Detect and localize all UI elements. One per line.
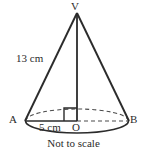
vertex-label-o: O — [72, 122, 80, 133]
right-angle-icon — [64, 108, 77, 121]
radius-label: 5 cm — [39, 122, 61, 133]
vertex-label-b: B — [130, 114, 137, 125]
cone-diagram: V A B O 13 cm 5 cm Not to scale — [0, 0, 147, 155]
not-to-scale-caption: Not to scale — [0, 138, 147, 149]
slant-height-label: 13 cm — [16, 53, 43, 64]
slant-line-VB — [77, 13, 129, 121]
slant-line-VA — [25, 13, 77, 121]
vertex-label-v: V — [71, 1, 79, 12]
vertex-label-a: A — [9, 114, 17, 125]
